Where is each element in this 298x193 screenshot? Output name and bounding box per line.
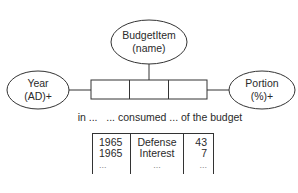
item-cell: Defense: [131, 134, 184, 149]
budget-item-label: BudgetItem (name): [111, 29, 187, 55]
year-cell: 1965: [93, 148, 131, 159]
table-row: 1965 Defense 43: [93, 134, 214, 149]
portion-cell: ...: [184, 159, 214, 174]
year-cell: ...: [93, 159, 131, 174]
relationship-box: [91, 80, 207, 99]
budget-item-name: BudgetItem: [111, 29, 187, 42]
year-name: Year: [7, 77, 69, 90]
portion-cell: 43: [184, 134, 214, 149]
portion-label: Portion (%)+: [229, 77, 295, 103]
table-row: 1965 Interest 7: [93, 148, 214, 159]
portion-key: (%)+: [229, 90, 295, 103]
table-row: ... ... ...: [93, 159, 214, 174]
population-table: 1965 Defense 43 1965 Interest 7 ... ... …: [92, 133, 214, 174]
portion-name: Portion: [229, 77, 295, 90]
fact-caption: in ... ... consumed ... of the budget: [60, 111, 260, 123]
year-label: Year (AD)+: [7, 77, 69, 103]
year-cell: 1965: [93, 134, 131, 149]
year-key: (AD)+: [7, 90, 69, 103]
budget-item-key: (name): [111, 42, 187, 55]
portion-cell: 7: [184, 148, 214, 159]
item-cell: ...: [131, 159, 184, 174]
item-cell: Interest: [131, 148, 184, 159]
